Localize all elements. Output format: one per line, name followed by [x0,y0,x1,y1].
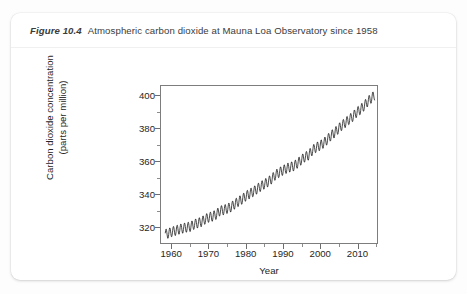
x-tick-label: 1990 [263,248,303,259]
x-tick-mark-minor [190,244,191,247]
y-tick-label: 360 [125,156,155,167]
x-tick-label: 2010 [338,248,378,259]
y-tick-label: 340 [125,189,155,200]
figure-caption: Figure 10.4Atmospheric carbon dioxide at… [30,25,440,36]
x-tick-label: 1970 [188,248,228,259]
y-tick-label: 400 [125,89,155,100]
x-tick-mark-minor [227,244,228,247]
co2-series-line [165,92,374,238]
x-tick-label: 1980 [226,248,266,259]
caption-divider [11,47,456,48]
y-tick-label: 320 [125,222,155,233]
y-axis-tick-labels: 320340360380400 [121,85,155,244]
plot-frame [160,85,378,244]
chart-area: Carbon dioxide concentration (parts per … [11,49,456,280]
figure-caption-text: Atmospheric carbon dioxide at Mauna Loa … [88,25,378,36]
x-tick-label: 2000 [300,248,340,259]
x-tick-label: 1960 [151,248,191,259]
x-tick-mark-minor [376,244,377,247]
y-axis-title-line1: Carbon dioxide concentration [44,38,57,198]
y-axis-title-line2: (parts per million) [56,38,69,198]
x-axis-title: Year [160,265,378,276]
co2-line-chart [161,86,377,243]
x-tick-mark-minor [302,244,303,247]
y-tick-label: 380 [125,123,155,134]
figure-number: Figure 10.4 [30,25,82,36]
figure-card: Figure 10.4Atmospheric carbon dioxide at… [11,13,456,280]
y-axis-title: Carbon dioxide concentration (parts per … [44,38,69,198]
x-tick-mark-minor [264,244,265,247]
page-background: Figure 10.4Atmospheric carbon dioxide at… [0,0,467,294]
x-tick-mark-minor [339,244,340,247]
